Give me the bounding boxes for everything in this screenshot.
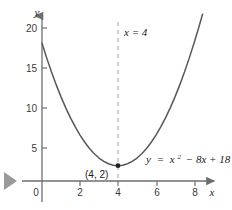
- equation-exponent: 2: [177, 153, 181, 161]
- equation-rest: − 8x + 18: [186, 153, 231, 165]
- parabola-curve: [42, 14, 203, 165]
- y-tick-label-5: 5: [31, 143, 37, 154]
- y-tick-label-10: 10: [26, 103, 38, 114]
- x-tick-label-8: 8: [192, 187, 198, 198]
- x-axis-label: x: [209, 186, 215, 198]
- y-tick-label-15: 15: [26, 63, 38, 74]
- x-tick-label-6: 6: [154, 187, 160, 198]
- play-triangle-marker[interactable]: [4, 172, 17, 190]
- x-tick-label-2: 2: [77, 187, 83, 198]
- quadratic-graph-figure: 0 2 4 6 8 5 10 15 20 x y x = 4 (4, 2) y …: [0, 0, 232, 210]
- equation-term-base: x: [169, 153, 175, 165]
- y-axis-label: y: [34, 6, 40, 18]
- equation-lhs: y: [145, 153, 151, 165]
- vertex-label: (4, 2): [85, 169, 108, 180]
- x-tick-label-0: 0: [33, 187, 39, 198]
- y-tick-label-20: 20: [26, 23, 38, 34]
- x-axis-ticks: [80, 181, 195, 186]
- equation-equals: =: [157, 153, 164, 165]
- plot-canvas: 0 2 4 6 8 5 10 15 20 x y x = 4 (4, 2) y …: [0, 0, 232, 210]
- x-tick-label-4: 4: [115, 187, 121, 198]
- vertex-point: [116, 163, 121, 168]
- equation-label: y = x 2 − 8x + 18: [145, 149, 231, 165]
- axis-of-symmetry-label: x = 4: [123, 26, 148, 38]
